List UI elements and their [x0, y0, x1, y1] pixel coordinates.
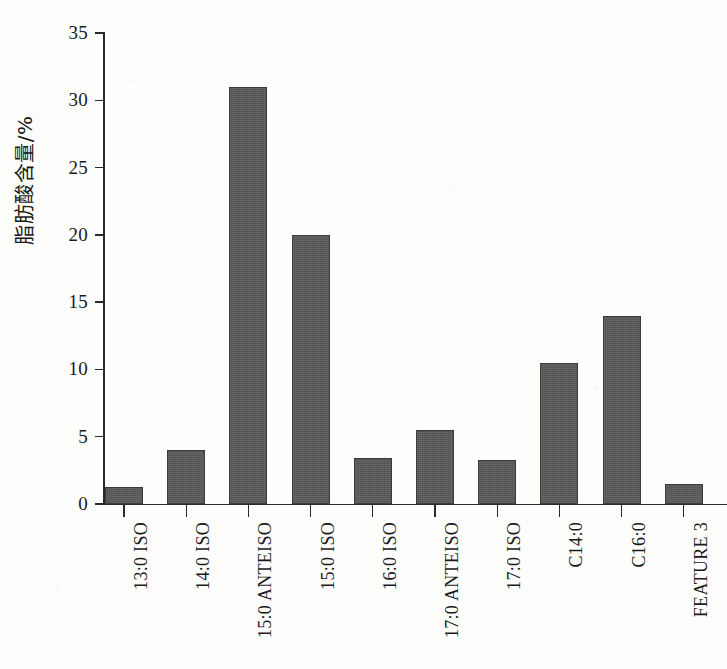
- y-tick-label: 0: [40, 494, 88, 513]
- y-tick-label: 35: [40, 23, 88, 42]
- x-tick-mark: [559, 504, 560, 517]
- y-tick-label: 25: [40, 158, 88, 177]
- x-tick-label: 14:0 ISO: [194, 522, 212, 669]
- x-tick-mark: [683, 504, 684, 517]
- x-tick-mark: [372, 504, 373, 517]
- x-tick-label-text: C14:0: [567, 522, 585, 568]
- bar: [665, 484, 703, 504]
- x-tick-label: 15:0 ISO: [319, 522, 337, 669]
- y-tick-mark: [95, 436, 104, 437]
- x-tick-label-text: 13:0 ISO: [132, 522, 150, 590]
- y-tick-label: 10: [40, 359, 88, 378]
- x-tick-label: 16:0 ISO: [381, 522, 399, 669]
- bar: [478, 460, 516, 504]
- bar: [292, 235, 330, 504]
- x-tick-mark: [621, 504, 622, 517]
- y-tick-mark: [95, 503, 104, 504]
- x-tick-mark: [310, 504, 311, 517]
- bar: [540, 363, 578, 504]
- x-tick-label: FEATURE 3: [692, 522, 710, 669]
- bar: [354, 458, 392, 504]
- y-tick-mark: [95, 100, 104, 101]
- y-tick-mark: [95, 167, 104, 168]
- x-tick-label-text: 14:0 ISO: [194, 522, 212, 590]
- x-tick-label: C16:0: [630, 522, 648, 669]
- x-tick-mark: [248, 504, 249, 517]
- bar: [105, 487, 143, 504]
- y-tick-mark: [95, 301, 104, 302]
- x-tick-label-text: 15:0 ISO: [319, 522, 337, 590]
- y-tick-label: 20: [40, 225, 88, 244]
- x-tick-mark: [186, 504, 187, 517]
- y-axis-title: 脂肪酸含量/%: [14, 80, 36, 280]
- x-tick-label: 17:0 ANTEISO: [443, 522, 461, 669]
- bar: [603, 316, 641, 504]
- y-tick-label: 30: [40, 90, 88, 109]
- y-axis-line: [103, 32, 105, 505]
- x-tick-label-text: 17:0 ANTEISO: [443, 522, 461, 638]
- figure-container: 脂肪酸含量/% 05101520253035 13:0 ISO14:0 ISO1…: [0, 0, 727, 669]
- y-tick-mark: [95, 32, 104, 33]
- x-tick-label-text: C16:0: [630, 522, 648, 568]
- bar-chart-plot: 脂肪酸含量/% 05101520253035 13:0 ISO14:0 ISO1…: [0, 0, 727, 669]
- bar: [416, 430, 454, 504]
- x-tick-label: 15:0 ANTEISO: [256, 522, 274, 669]
- x-tick-label-text: FEATURE 3: [692, 522, 710, 617]
- y-tick-mark: [95, 369, 104, 370]
- x-tick-mark: [497, 504, 498, 517]
- x-tick-label: 13:0 ISO: [132, 522, 150, 669]
- y-tick-mark: [95, 234, 104, 235]
- x-tick-label-text: 15:0 ANTEISO: [256, 522, 274, 638]
- x-tick-label: C14:0: [567, 522, 585, 669]
- bar: [167, 450, 205, 504]
- x-tick-label: 17:0 ISO: [505, 522, 523, 669]
- bar: [229, 87, 267, 504]
- x-tick-label-text: 16:0 ISO: [381, 522, 399, 590]
- x-tick-mark: [434, 504, 435, 517]
- y-tick-label: 5: [40, 427, 88, 446]
- x-tick-label-text: 17:0 ISO: [505, 522, 523, 590]
- y-tick-label: 15: [40, 292, 88, 311]
- x-tick-mark: [123, 504, 124, 517]
